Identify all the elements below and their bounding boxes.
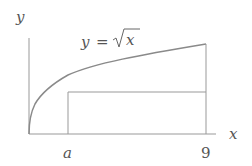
curve-label-lhs: y xyxy=(80,33,90,51)
diagram-canvas: y x y = x a 9 xyxy=(0,0,252,166)
x-axis-label: x xyxy=(229,125,238,143)
curve-label-radicand: x xyxy=(126,31,135,49)
sqrt-curve xyxy=(29,44,206,134)
curve-label: y = x xyxy=(80,29,140,51)
a-tick-label: a xyxy=(63,144,72,162)
y-axis-label: y xyxy=(15,8,25,26)
nine-tick-label: 9 xyxy=(201,144,211,162)
curve-label-equals: = xyxy=(96,33,109,51)
